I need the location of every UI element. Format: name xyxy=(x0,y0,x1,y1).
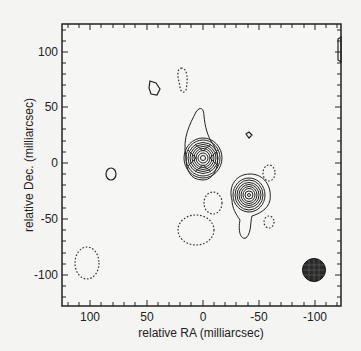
x-tick-label: -100 xyxy=(303,310,327,324)
y-tick-label: 50 xyxy=(45,100,59,114)
x-tick-label: 0 xyxy=(200,310,207,324)
beam-ellipse xyxy=(303,259,326,282)
x-tick-label: 100 xyxy=(80,310,100,324)
x-tick-label: -50 xyxy=(250,310,268,324)
y-tick-label: 100 xyxy=(38,45,58,59)
x-axis-label: relative RA (milliarcsec) xyxy=(138,326,263,340)
y-tick-label: -50 xyxy=(41,212,59,226)
y-tick-labels: 100 50 0 -50 -100 xyxy=(34,45,58,282)
x-tick-labels: 100 50 0 -50 -100 xyxy=(80,310,327,324)
contour-map-chart: 100 50 0 -50 -100 100 50 0 -50 -100 rela… xyxy=(0,0,361,351)
y-tick-label: -100 xyxy=(34,268,58,282)
y-axis-label: relative Dec. (milliarcsec) xyxy=(22,98,36,232)
y-tick-label: 0 xyxy=(51,156,58,170)
x-tick-label: 50 xyxy=(140,310,154,324)
